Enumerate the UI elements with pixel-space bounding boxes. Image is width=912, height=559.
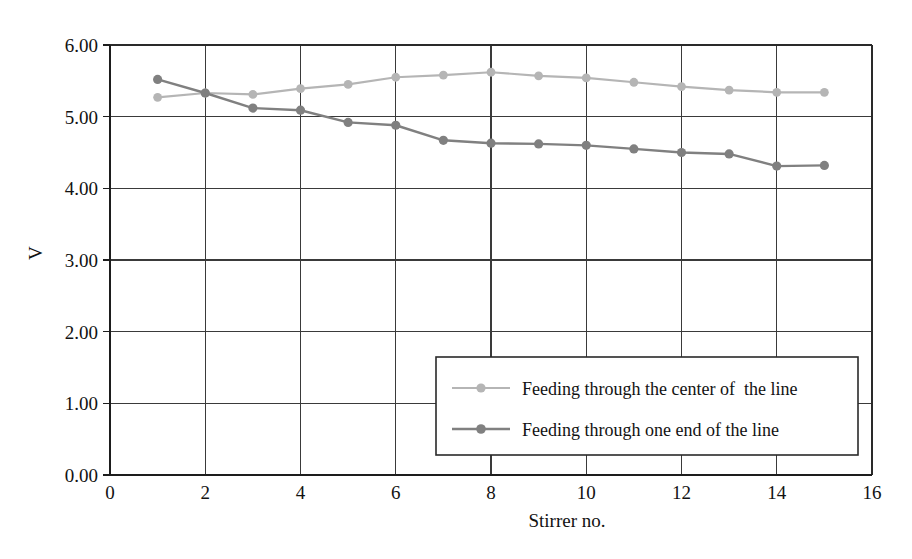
data-point-marker — [487, 68, 496, 77]
data-point-marker — [772, 88, 781, 97]
data-point-marker — [534, 139, 543, 148]
data-point-marker — [772, 162, 781, 171]
data-point-marker — [629, 78, 638, 87]
x-tick-label: 4 — [296, 482, 306, 503]
x-tick-label: 14 — [767, 482, 787, 503]
chart-figure: 0.001.002.003.004.005.006.00 02468101214… — [0, 0, 912, 559]
data-point-marker — [391, 73, 400, 82]
y-tick-label: 6.00 — [65, 35, 98, 56]
x-axis-title: Stirrer no. — [528, 510, 605, 531]
x-tick-label: 6 — [391, 482, 401, 503]
data-point-marker — [629, 144, 638, 153]
x-tick-label: 8 — [486, 482, 496, 503]
x-tick-label: 12 — [672, 482, 691, 503]
y-tick-label: 0.00 — [65, 465, 98, 486]
legend-label-one-end: Feeding through one end of the line — [522, 420, 779, 440]
legend-marker-center — [476, 383, 485, 392]
data-point-marker — [248, 90, 257, 99]
data-point-marker — [296, 106, 305, 115]
legend-label-center: Feeding through the center of the line — [522, 379, 797, 399]
y-tick-label: 2.00 — [65, 322, 98, 343]
legend-box — [436, 357, 858, 455]
x-tick-label: 10 — [577, 482, 596, 503]
data-point-marker — [391, 121, 400, 130]
data-point-marker — [248, 103, 257, 112]
data-point-marker — [344, 118, 353, 127]
legend-marker-one-end — [476, 424, 486, 434]
y-axis-title: V — [25, 246, 46, 260]
x-tick-label: 0 — [105, 482, 115, 503]
y-tick-label: 5.00 — [65, 107, 98, 128]
data-point-marker — [344, 80, 353, 89]
data-point-marker — [677, 82, 686, 91]
y-tick-label: 4.00 — [65, 178, 98, 199]
data-point-marker — [725, 86, 734, 95]
data-point-marker — [296, 84, 305, 93]
data-point-marker — [201, 88, 210, 97]
y-tick-label: 1.00 — [65, 393, 98, 414]
data-point-marker — [582, 141, 591, 150]
data-point-marker — [677, 148, 686, 157]
data-point-marker — [534, 71, 543, 80]
x-tick-label: 16 — [863, 482, 882, 503]
line-chart: 0.001.002.003.004.005.006.00 02468101214… — [0, 0, 912, 559]
y-tick-label: 3.00 — [65, 250, 98, 271]
data-point-marker — [820, 161, 829, 170]
data-point-marker — [153, 93, 162, 102]
data-point-marker — [439, 71, 448, 80]
data-point-marker — [439, 136, 448, 145]
data-point-marker — [486, 139, 495, 148]
data-point-marker — [582, 74, 591, 83]
data-point-marker — [153, 75, 162, 84]
x-tick-label: 2 — [201, 482, 211, 503]
chart-legend: Feeding through the center of the line F… — [436, 357, 858, 455]
data-point-marker — [725, 149, 734, 158]
data-point-marker — [820, 88, 829, 97]
